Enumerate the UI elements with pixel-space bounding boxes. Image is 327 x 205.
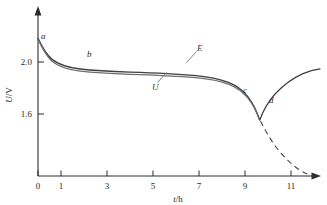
x-tick-label-0: 0 [36, 181, 41, 191]
point-label-d: d [269, 95, 274, 105]
x-axis-title: t/h [173, 194, 183, 204]
x-tick-label-9: 9 [243, 181, 248, 191]
point-label-b: b [87, 49, 92, 59]
y-tick-label-1.6: 1.6 [21, 109, 33, 119]
chart-container: 0 1 3 5 7 9 11 2.0 1.6 t/h U/V a b [0, 0, 327, 205]
curve-label-E: E [196, 43, 203, 53]
x-tick-label-11: 11 [287, 181, 296, 191]
discharge-curve-plot: 0 1 3 5 7 9 11 2.0 1.6 t/h U/V a b [0, 0, 327, 205]
curve-E [38, 38, 260, 119]
x-tick-label-3: 3 [105, 181, 110, 191]
curve-label-U: U [152, 82, 159, 92]
curve-continued-discharge-dashed [261, 121, 315, 176]
x-tick-labels: 0 1 3 5 7 9 11 [36, 181, 296, 191]
point-label-a: a [41, 31, 46, 41]
axis-group [35, 6, 321, 179]
y-tick-label-2.0: 2.0 [21, 57, 33, 67]
x-tick-marks [38, 171, 291, 177]
x-tick-label-5: 5 [151, 181, 156, 191]
y-tick-marks [38, 62, 44, 114]
curve-U [38, 39, 260, 120]
leader-line-E [187, 52, 197, 63]
point-label-c: c [243, 85, 247, 95]
y-axis-title-unit: /V [4, 87, 14, 97]
x-tick-label-7: 7 [197, 181, 202, 191]
x-tick-label-1: 1 [59, 181, 64, 191]
y-axis-arrowhead [35, 6, 42, 16]
x-axis-title-unit: /h [176, 194, 184, 204]
y-axis-title: U/V [4, 87, 14, 103]
y-tick-labels: 2.0 1.6 [21, 57, 33, 119]
